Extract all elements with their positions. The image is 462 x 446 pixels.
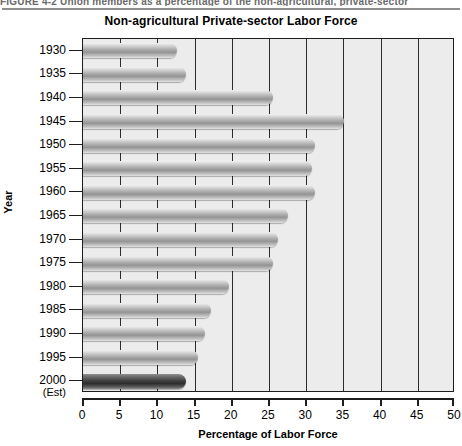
bar-2000 [82,374,186,389]
x-tick-label-0: 0 [67,409,97,421]
y-tick-label-2000: 2000 [39,374,66,386]
y-tick-mark-1980 [69,286,82,287]
y-tick-label-1980: 1980 [39,280,66,292]
bar-1985 [82,303,211,318]
bar-1980 [82,279,229,294]
bar-1945 [82,114,344,129]
y-tick-sublabel-2000: (Est) [43,387,66,398]
bar-1940 [82,90,273,105]
x-tick-mark-30 [305,398,307,406]
x-tick-label-40: 40 [365,409,395,421]
x-tick-mark-40 [380,398,382,406]
caption-rule [2,8,460,10]
bar-1930 [82,43,177,58]
gridline-40 [381,39,382,391]
y-tick-mark-1930 [69,50,82,51]
y-tick-label-1985: 1985 [39,303,66,315]
x-tick-label-10: 10 [141,409,171,421]
gridline-35 [343,39,344,391]
y-tick-label-1945: 1945 [39,115,66,127]
y-tick-label-1995: 1995 [39,351,66,363]
y-tick-mark-1960 [69,191,82,192]
y-tick-label-1935: 1935 [39,67,66,79]
x-tick-label-35: 35 [327,409,357,421]
x-tick-label-20: 20 [216,409,246,421]
x-tick-mark-25 [268,398,270,406]
bar-1995 [82,350,198,365]
bar-1970 [82,232,278,247]
y-tick-mark-1940 [69,97,82,98]
x-tick-label-50: 50 [439,409,462,421]
y-tick-mark-1970 [69,239,82,240]
y-tick-mark-1945 [69,121,82,122]
y-tick-mark-2000 [69,380,82,381]
x-tick-mark-15 [194,398,196,406]
y-tick-label-1965: 1965 [39,209,66,221]
y-tick-label-1990: 1990 [39,327,66,339]
y-tick-label-1940: 1940 [39,91,66,103]
x-axis-title: Percentage of Labor Force [82,428,454,440]
y-axis-labels: 1930193519401945195019551960196519701975… [0,38,82,392]
y-tick-label-1975: 1975 [39,256,66,268]
bar-1955 [82,161,312,176]
y-tick-mark-1955 [69,168,82,169]
figure-caption: FIGURE 4-2 Union members as a percentage… [0,0,462,6]
bar-1935 [82,67,186,82]
x-tick-label-45: 45 [402,409,432,421]
y-tick-mark-1990 [69,333,82,334]
x-tick-mark-45 [417,398,419,406]
x-tick-label-15: 15 [179,409,209,421]
x-tick-label-25: 25 [253,409,283,421]
gridline-45 [418,39,419,391]
y-tick-label-1955: 1955 [39,162,66,174]
y-tick-mark-1995 [69,357,82,358]
x-tick-mark-20 [231,398,233,406]
x-tick-mark-5 [119,398,121,406]
x-tick-label-30: 30 [290,409,320,421]
y-tick-label-1950: 1950 [39,138,66,150]
y-tick-label-1970: 1970 [39,233,66,245]
y-tick-mark-1975 [69,262,82,263]
y-tick-mark-1950 [69,144,82,145]
y-tick-label-1960: 1960 [39,185,66,197]
bar-1990 [82,326,205,341]
chart-title: Non-agricultural Private-sector Labor Fo… [0,14,462,28]
plot-area [82,38,454,392]
y-tick-label-1930: 1930 [39,44,66,56]
bar-1950 [82,138,315,153]
gridline-30 [306,39,307,391]
x-tick-mark-35 [342,398,344,406]
bar-1975 [82,256,273,271]
y-tick-mark-1935 [69,73,82,74]
bar-1965 [82,208,288,223]
x-tick-mark-50 [452,398,454,406]
x-axis: Percentage of Labor Force 05101520253035… [82,398,454,446]
y-tick-mark-1965 [69,215,82,216]
y-tick-mark-1985 [69,309,82,310]
bar-1960 [82,185,315,200]
x-tick-mark-10 [156,398,158,406]
x-tick-label-5: 5 [104,409,134,421]
x-tick-mark-0 [82,398,84,406]
